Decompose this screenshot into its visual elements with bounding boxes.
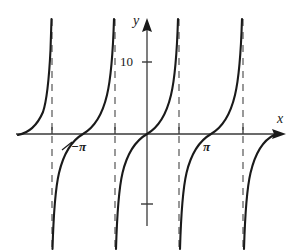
x-axis-label: x <box>277 112 283 126</box>
tangent-branch <box>18 19 52 135</box>
x-tick-label-positive-pi: π <box>203 140 210 153</box>
y-axis-arrowhead <box>142 18 152 32</box>
graph-canvas <box>0 0 295 251</box>
tangent-branch <box>244 135 274 249</box>
tangent-graph-figure: y x 10 −π π <box>0 0 295 251</box>
y-tick-label-10: 10 <box>120 55 133 68</box>
x-tick-label-negative-pi: −π <box>71 140 86 153</box>
y-axis-label: y <box>133 14 139 28</box>
